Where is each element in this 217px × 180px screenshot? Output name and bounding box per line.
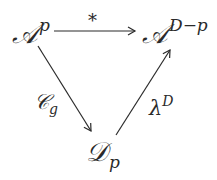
node-a-dp-sup: D−p <box>169 15 208 35</box>
node-d-p: 𝒟p <box>86 138 120 165</box>
label-cg: 𝒞g <box>34 92 58 113</box>
cg-base: 𝒞 <box>34 90 49 114</box>
commutative-diagram: 𝒜p * 𝒜D−p 𝒞g λD 𝒟p <box>0 0 217 180</box>
cg-sub: g <box>49 101 58 117</box>
lambda-sup: D <box>162 93 173 109</box>
node-d-p-base: 𝒟 <box>86 136 108 167</box>
node-a-dp-base: 𝒜 <box>142 18 168 49</box>
node-d-p-sub: p <box>109 152 120 172</box>
lambda-base: λ <box>149 96 162 120</box>
node-a-d-minus-p: 𝒜D−p <box>142 20 208 47</box>
node-a-p-sup: p <box>39 15 50 35</box>
arrow-cg <box>38 46 91 131</box>
label-lambda-d: λD <box>149 98 174 119</box>
node-a-p: 𝒜p <box>12 20 50 47</box>
label-star: * <box>88 12 97 30</box>
star-label: * <box>88 10 97 31</box>
node-a-p-base: 𝒜 <box>12 18 38 49</box>
